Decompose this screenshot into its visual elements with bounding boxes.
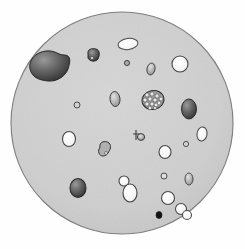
particle-black-dot-bottom [156,212,162,219]
particle-bright-circle-upper-right [172,56,188,72]
particle-bright-circle-mid-right [159,146,171,159]
particle-small-dark-blob-upper [88,49,99,61]
particle-tadpole-center-head [137,134,144,141]
particle-small-dark-blob-upper-inclusion [90,56,93,59]
microscope-figure [0,0,245,249]
particle-tiny-ring-right [183,141,188,146]
particle-bright-circle-mid-left [63,132,76,147]
particle-oval-lower-right [185,173,193,185]
particle-oval-mid-upper-left-small [74,102,80,108]
particle-dark-oval-right [182,99,197,119]
particle-amoeboid-mid-inclusion [105,152,108,155]
particle-overlap-pair-b [183,211,192,220]
particle-dark-oval-lower-left [70,179,86,198]
field-of-view-canvas [0,0,245,249]
particle-bright-circle-lower-right [162,192,175,205]
particle-budding-pair-large [123,184,137,202]
particle-tiny-dot-upper-mid [124,60,129,65]
particle-tiny-ring-lower-mid [161,173,167,179]
